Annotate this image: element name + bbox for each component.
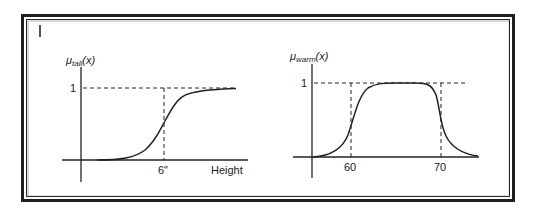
tall-xlabel-height: Height — [211, 164, 243, 176]
tall-membership-curve — [97, 89, 236, 161]
tall-membership-chart: μtall(x) 1 6" Height — [62, 54, 248, 182]
warm-membership-chart: μwarm(x) 1 60 70 — [289, 50, 479, 178]
tall-ylabel: μtall(x) — [65, 54, 95, 68]
warm-y-tick-one: 1 — [301, 77, 307, 89]
warm-ylabel: μwarm(x) — [289, 50, 329, 64]
tall-x-tick-6ft: 6" — [158, 164, 168, 176]
warm-membership-curve — [313, 83, 478, 157]
warm-x-tick-70: 70 — [434, 161, 446, 173]
warm-x-tick-60: 60 — [344, 161, 356, 173]
membership-function-diagrams: μtall(x) 1 6" Height μwarm(x) 1 60 70 — [0, 0, 538, 209]
tall-y-tick-one: 1 — [70, 82, 76, 94]
